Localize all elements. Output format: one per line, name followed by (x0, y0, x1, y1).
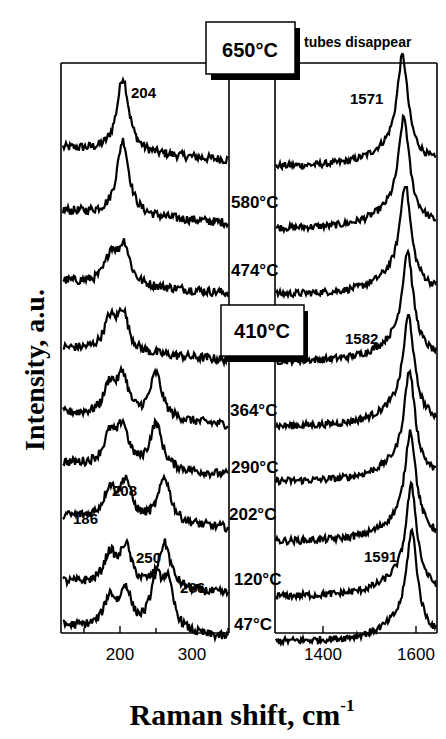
x-axis-label: Raman shift, cm-1 (130, 696, 355, 731)
temp-label-364: 364°C (230, 401, 277, 420)
x-axis-label-superscript: -1 (340, 696, 354, 715)
right-x-ticks (323, 626, 416, 633)
g-band-spectrum-120 (276, 483, 436, 599)
temp-label-580: 580°C (231, 193, 278, 212)
tubes-disappear-note: tubes disappear (304, 34, 412, 50)
temp-label-650: 650°C (222, 39, 278, 61)
tick-label-1400: 1400 (304, 645, 342, 664)
tick-label-1600: 1600 (397, 645, 435, 664)
peak-label-1582: 1582 (345, 330, 378, 347)
peak-label-250: 250 (136, 549, 161, 566)
peak-label-1591: 1591 (364, 548, 397, 565)
tick-label-200: 200 (106, 645, 134, 664)
peak-label-1571: 1571 (350, 90, 383, 107)
tick-label-300: 300 (178, 645, 206, 664)
rbm-spectrum-290 (63, 419, 228, 477)
label-box-410: 410°C (221, 305, 308, 362)
temperature-labels: 580°C 474°C 364°C 290°C 202°C 120°C 47°C (229, 193, 281, 634)
peak-label-266: 266 (180, 579, 205, 596)
temp-label-120: 120°C (234, 570, 281, 589)
temp-label-47: 47°C (234, 615, 272, 634)
rbm-spectrum-410 (63, 309, 228, 364)
rbm-spectrum-474 (63, 238, 228, 296)
raman-chart: 200 300 1400 1600 650°C tubes disappear … (0, 0, 446, 739)
g-band-spectrum-580 (276, 116, 436, 231)
temp-label-290: 290°C (231, 458, 278, 477)
x-axis-label-text: Raman shift, cm (130, 698, 341, 731)
temp-label-202: 202°C (229, 505, 276, 524)
peak-label-204: 204 (131, 84, 157, 101)
label-box-650: 650°C (206, 22, 300, 80)
peak-label-208: 208 (112, 482, 137, 499)
rbm-spectrum-364 (63, 368, 228, 428)
rbm-spectrum-580 (63, 138, 228, 227)
temp-label-410: 410°C (234, 320, 290, 342)
peak-label-186: 186 (73, 510, 98, 527)
g-band-spectrum-47 (276, 530, 436, 644)
y-axis-label: Intensity, a.u. (19, 289, 50, 451)
temp-label-474: 474°C (231, 261, 278, 280)
